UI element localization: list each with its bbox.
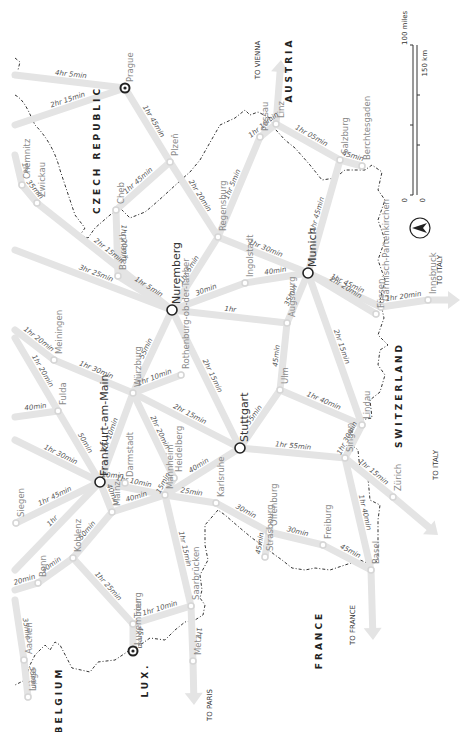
direction-label-to-paris: TO PARIS [206, 688, 214, 722]
travel-time-labels: 4hr 5min2hr 15min1hr 45min2hr 20min1hr 4… [13, 69, 422, 689]
city-label-munich: Munich [306, 227, 319, 267]
city-label-zurich: Zürich [393, 464, 403, 491]
city-label-rothenburg: Rothenburg-ob-der-Tauber [181, 258, 191, 369]
city-label-ingolstadt: Ingolstadt [245, 234, 255, 277]
city-node-liege[interactable] [25, 694, 31, 700]
country-label-austria: AUSTRIA [284, 38, 294, 103]
capital-dot-icon [123, 86, 126, 89]
city-label-salzburg: Salzburg [340, 117, 350, 154]
city-node-bayreuth[interactable] [115, 273, 121, 279]
city-node-aachen[interactable] [21, 657, 27, 663]
city-label-ulm: Ulm [280, 367, 290, 384]
scale-km-label: 150 km [421, 50, 429, 77]
direction-label-to-france: TO FRANCE [349, 605, 357, 646]
city-node-saarbrucken[interactable] [188, 603, 194, 609]
city-label-aachen: Aachen [24, 622, 34, 654]
country-label-czech: CZECH REPUBLIC [92, 86, 102, 214]
arrow-shaft [193, 661, 194, 693]
city-node-koblenz[interactable] [70, 555, 76, 561]
city-node-munich[interactable] [303, 268, 313, 278]
city-node-linz[interactable] [273, 121, 279, 127]
travel-time-label: 1hr [224, 305, 238, 314]
city-node-frankfurt[interactable] [95, 477, 105, 487]
city-node-ulm[interactable] [277, 387, 283, 393]
city-label-bonn: Bonn [38, 555, 48, 577]
arrow-head-icon [364, 628, 382, 640]
city-node-augsburg[interactable] [284, 320, 290, 326]
city-node-karlsruhe[interactable] [213, 500, 219, 506]
route-line [37, 203, 172, 310]
arrow-shaft [393, 497, 429, 527]
direction-label-to-italy-1: TO ITALY [436, 254, 444, 286]
route-line [15, 155, 22, 185]
route-line [15, 88, 125, 125]
city-node-salzburg[interactable] [337, 157, 343, 163]
city-label-passau: Passau [260, 102, 270, 131]
compass-north-icon [410, 218, 430, 238]
city-node-basel[interactable] [368, 567, 374, 573]
city-node-mainz[interactable] [109, 509, 115, 515]
route-line [165, 495, 216, 503]
route-line [15, 250, 172, 310]
city-node-fulda[interactable] [55, 408, 61, 414]
city-label-fulda: Fulda [58, 382, 68, 405]
city-node-zurich[interactable] [390, 494, 396, 500]
city-node-ingolstadt[interactable] [242, 280, 248, 286]
city-label-chemnitz: Chemnitz [22, 138, 32, 179]
city-label-wurzburg: Würzburg [133, 346, 143, 387]
route-line [170, 162, 218, 237]
city-node-plzen[interactable] [167, 159, 173, 165]
city-node-lindau[interactable] [359, 422, 365, 428]
scale-zero-km: 0 [419, 198, 427, 202]
direction-arrows [185, 60, 460, 705]
city-label-karlsruhe: Karlsruhe [216, 457, 226, 497]
city-node-passau[interactable] [257, 134, 263, 140]
city-node-innsbruck[interactable] [425, 297, 431, 303]
city-label-siegen: Siegen [16, 488, 26, 517]
city-label-heidelberg: Heidelberg [174, 426, 184, 472]
city-label-berchtesgaden: Berchtesgaden [362, 96, 372, 160]
city-label-metz: Metz [193, 634, 203, 655]
city-label-freiburg: Freiburg [323, 504, 333, 539]
scale-zero-miles: 0 [401, 198, 409, 202]
city-label-lindau: Lindau [362, 391, 372, 419]
city-label-singen: Singen [345, 423, 355, 452]
city-label-plzen: Plzeň [170, 133, 180, 156]
city-label-liege: Liège [28, 668, 38, 691]
arrow-head-icon [185, 693, 203, 705]
capital-dot-icon [131, 649, 134, 652]
city-node-metz[interactable] [190, 658, 196, 664]
city-node-strasbourg[interactable] [262, 554, 268, 560]
city-label-zwickau: Zwickau [37, 162, 47, 197]
city-label-mainz: Mainz [112, 481, 122, 506]
city-node-stuttgart[interactable] [235, 443, 245, 453]
city-node-freiburg[interactable] [320, 542, 326, 548]
city-label-koblenz: Koblenz [73, 518, 83, 552]
city-node-cheb[interactable] [113, 207, 119, 213]
city-label-mannheim: Mannheim [165, 444, 175, 489]
city-node-regensburg[interactable] [215, 234, 221, 240]
city-node-zwickau[interactable] [34, 200, 40, 206]
city-node-mannheim[interactable] [162, 492, 168, 498]
scale-miles-label: 100 miles [401, 10, 409, 45]
city-node-fussen[interactable] [373, 311, 379, 317]
city-node-chemnitz[interactable] [19, 182, 25, 188]
city-node-berchtesgaden[interactable] [359, 163, 365, 169]
city-node-bonn[interactable] [35, 580, 41, 586]
city-label-stuttgart: Stuttgart [238, 392, 251, 442]
city-node-rothenburg[interactable] [178, 372, 184, 378]
city-node-nuremberg[interactable] [167, 305, 177, 315]
city-label-frankfurt: Frankfurt-am-Main [98, 375, 111, 476]
city-node-darmstadt[interactable] [122, 480, 128, 486]
city-label-cheb: Cheb [116, 182, 126, 204]
rail-map: 4hr 5min2hr 15min1hr 45min2hr 20min1hr 4… [0, 0, 471, 732]
city-node-siegen[interactable] [13, 520, 19, 526]
route-line [16, 482, 100, 523]
city-node-wurzburg[interactable] [130, 390, 136, 396]
city-node-meiningen[interactable] [51, 357, 57, 363]
country-label-belgium: BELGIUM [54, 667, 64, 732]
route-line [15, 411, 58, 417]
city-node-singen[interactable] [342, 455, 348, 461]
city-label-basel: Basel [371, 541, 381, 564]
direction-label-to-vienna: TO VIENNA [254, 41, 262, 81]
